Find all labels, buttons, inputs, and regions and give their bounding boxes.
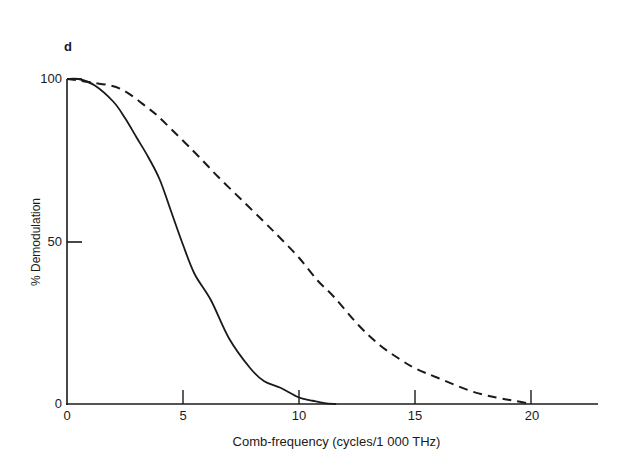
x-ticks: [183, 390, 531, 404]
x-axis-title: Comb-frequency (cycles/1 000 THz): [233, 434, 441, 449]
x-tick-label-0: 0: [52, 408, 82, 423]
x-tick-label-10: 10: [284, 408, 314, 423]
dashed-curve: [67, 79, 531, 404]
x-tick-label-15: 15: [400, 408, 430, 423]
solid-curve: [67, 79, 336, 404]
y-tick-label-100: 100: [32, 71, 62, 86]
y-axis-title: % Demodulation: [29, 198, 43, 286]
panel-label: d: [64, 39, 72, 54]
axes: [66, 79, 598, 405]
x-tick-label-5: 5: [168, 408, 198, 423]
x-axis-title-wrap: Comb-frequency (cycles/1 000 THz): [0, 434, 627, 449]
x-tick-label-20: 20: [517, 408, 547, 423]
chart-plot: [0, 0, 627, 475]
